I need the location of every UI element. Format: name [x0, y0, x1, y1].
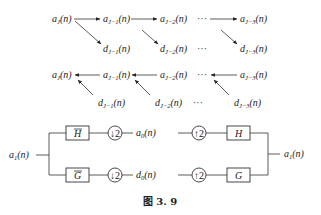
- fb-output-a1: a1(n): [284, 148, 305, 160]
- dec-a-J-2: aJ−2(n): [160, 13, 188, 25]
- synthesis-h-label: H: [234, 128, 243, 139]
- rec-a-J: aJ(n): [52, 69, 72, 81]
- rec-arrow-d3: [214, 80, 229, 95]
- downsample-top-label: ↓2: [110, 128, 120, 139]
- rec-ellipsis-bottom: ···: [193, 97, 203, 108]
- rec-ellipsis-top: ···: [197, 69, 207, 80]
- dec-a-J-1: aJ−1(n): [103, 13, 131, 25]
- dec-d-J-1: dJ−1(n): [103, 43, 131, 55]
- dec-d-J-3: dJ−3(n): [240, 43, 268, 55]
- dec-a-J-3: aJ−3(n): [240, 13, 268, 25]
- filter-bank: a1(n) H ↓2 a0(n) G ↓2 d0(n) ↑2 H ↑2: [9, 126, 305, 182]
- rec-arrow-d2: [135, 80, 150, 95]
- dec-arrow-d1: [75, 21, 101, 44]
- dec-arrow-d2: [142, 30, 158, 44]
- dec-ellipsis-bottom: ···: [197, 43, 207, 54]
- rec-a-J-3: aJ−3(n): [240, 69, 268, 81]
- synthesis-g-label: G: [235, 170, 242, 181]
- dec-a-J: aJ(n): [52, 13, 72, 25]
- fb-input-a1: a1(n): [9, 149, 30, 161]
- rec-d-J-1: dJ−1(n): [98, 97, 126, 109]
- dec-d-J-2: dJ−2(n): [160, 43, 188, 55]
- upsample-bottom-label: ↑2: [194, 170, 204, 181]
- reconstruction-tree: aJ(n) aJ−1(n) aJ−2(n) ··· aJ−3(n) dJ−1(n…: [52, 69, 268, 109]
- rec-d-J-2: dJ−2(n): [155, 97, 183, 109]
- fb-d0-label: d0(n): [136, 169, 157, 181]
- decomposition-tree: aJ(n) aJ−1(n) aJ−2(n) ··· aJ−3(n) dJ−1(n…: [52, 13, 268, 55]
- rec-a-J-1: aJ−1(n): [103, 69, 131, 81]
- dec-arrow-d3: [221, 30, 237, 44]
- rec-arrow-d1: [78, 80, 93, 95]
- rec-d-J-3: dJ−3(n): [234, 97, 262, 109]
- dec-ellipsis-top: ···: [197, 13, 207, 24]
- wavelet-diagram: aJ(n) aJ−1(n) aJ−2(n) ··· aJ−3(n) dJ−1(n…: [0, 0, 321, 215]
- analysis-g-label: G: [74, 170, 81, 181]
- rec-a-J-2: aJ−2(n): [160, 69, 188, 81]
- fb-a0-label: a0(n): [136, 127, 157, 139]
- analysis-h-label: H: [73, 128, 82, 139]
- downsample-bottom-label: ↓2: [110, 170, 120, 181]
- figure-caption: 图 3. 9: [143, 196, 177, 207]
- upsample-top-label: ↑2: [194, 128, 204, 139]
